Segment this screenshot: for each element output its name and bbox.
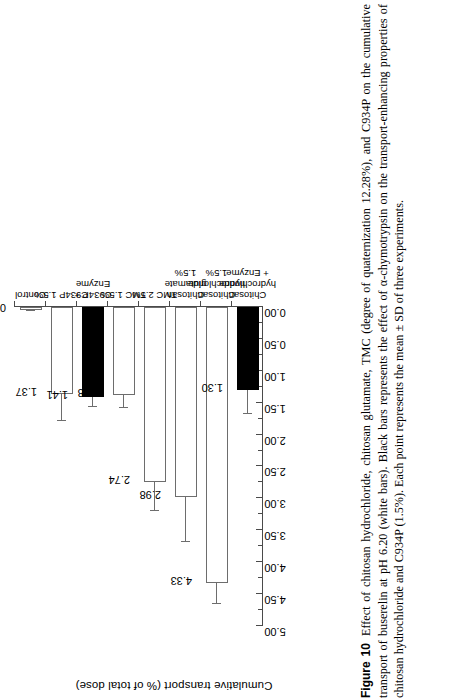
error-bar-cap-1 bbox=[57, 420, 66, 421]
bar-0 bbox=[20, 307, 42, 310]
axis-tick-label: 1.50 bbox=[255, 403, 295, 415]
figure-caption: Figure 10Effect of chitosan hydrochlorid… bbox=[358, 4, 408, 698]
category-tick bbox=[200, 301, 201, 307]
axis-tick-minor bbox=[258, 450, 263, 451]
axis-tick-label: 1.00 bbox=[255, 371, 295, 383]
axis-tick-minor bbox=[258, 386, 263, 387]
category-tick bbox=[76, 301, 77, 307]
bar-7 bbox=[237, 307, 259, 390]
axis-tick-label: 0.00 bbox=[255, 307, 295, 319]
category-tick bbox=[45, 301, 46, 307]
category-label-line: + Enzyme bbox=[205, 268, 291, 279]
category-tick bbox=[14, 301, 15, 307]
figure-caption-text: Effect of chitosan hydrochloride, chitos… bbox=[359, 4, 406, 698]
bar-value-label-7: 1.30 bbox=[201, 382, 222, 394]
figure-rotator: Cumulative transport (% of total dose) 0… bbox=[0, 0, 455, 700]
axis-tick-label: 0.50 bbox=[255, 339, 295, 351]
bar-value-label-6: 4.33 bbox=[170, 575, 191, 587]
bar-1 bbox=[51, 307, 73, 394]
error-bar-cap-5 bbox=[181, 541, 190, 542]
error-bar-cap-2 bbox=[88, 406, 97, 407]
axis-tick-label: 5.00 bbox=[255, 626, 295, 638]
category-label-7: Chitosanhydrochloride+ Enzyme bbox=[205, 268, 291, 301]
category-tick bbox=[169, 301, 170, 307]
error-bar-5 bbox=[185, 497, 186, 542]
bar-value-label-4: 2.74 bbox=[108, 474, 129, 486]
bar-chart: Cumulative transport (% of total dose) 0… bbox=[0, 0, 348, 700]
axis-tick-label: 4.00 bbox=[255, 562, 295, 574]
error-bar-cap-3 bbox=[119, 407, 128, 408]
bar-4 bbox=[144, 307, 166, 482]
axis-tick-label: 2.50 bbox=[255, 467, 295, 479]
category-tick bbox=[138, 301, 139, 307]
category-label-line: Enzyme bbox=[50, 279, 136, 290]
axis-tick-label: 3.00 bbox=[255, 498, 295, 510]
bar-5 bbox=[175, 307, 197, 497]
figure-label: Figure 10 bbox=[359, 643, 373, 698]
axis-tick-label: 2.00 bbox=[255, 435, 295, 447]
error-bar-cap-6 bbox=[212, 603, 221, 604]
bar-value-label-1: 1.37 bbox=[15, 386, 36, 398]
bar-value-label-2: 1.41 bbox=[46, 389, 67, 401]
error-bar-cap-4 bbox=[150, 510, 159, 511]
category-label-line: Chitosan bbox=[205, 290, 291, 301]
error-bar-cap-0 bbox=[26, 310, 35, 311]
axis-tick-minor bbox=[258, 418, 263, 419]
bar-6 bbox=[206, 307, 228, 583]
axis-tick-minor bbox=[258, 577, 263, 578]
category-tick bbox=[231, 301, 232, 307]
bar-value-label-5: 2.98 bbox=[139, 489, 160, 501]
axis-tick-minor bbox=[258, 513, 263, 514]
value-axis-title: Cumulative transport (% of total dose) bbox=[0, 670, 348, 692]
category-tick bbox=[107, 301, 108, 307]
error-bar-7 bbox=[247, 390, 248, 414]
axis-tick-minor bbox=[258, 481, 263, 482]
axis-tick-minor bbox=[258, 322, 263, 323]
error-bar-6 bbox=[216, 583, 217, 604]
bar-2 bbox=[82, 307, 104, 397]
bar-3 bbox=[113, 307, 135, 395]
category-label-line: hydrochloride bbox=[205, 279, 291, 290]
error-bar-cap-7 bbox=[243, 413, 252, 414]
axis-tick-minor bbox=[258, 609, 263, 610]
axis-tick-label: 4.50 bbox=[255, 594, 295, 606]
bar-value-label-0: 0.04 bbox=[0, 302, 6, 314]
bar-value-label-3: 1.38 bbox=[77, 387, 98, 399]
axis-tick-minor bbox=[258, 545, 263, 546]
axis-tick-minor bbox=[258, 354, 263, 355]
axis-tick-label: 3.50 bbox=[255, 530, 295, 542]
plot-area: 0.000.501.001.502.002.503.003.504.004.50… bbox=[0, 0, 348, 670]
